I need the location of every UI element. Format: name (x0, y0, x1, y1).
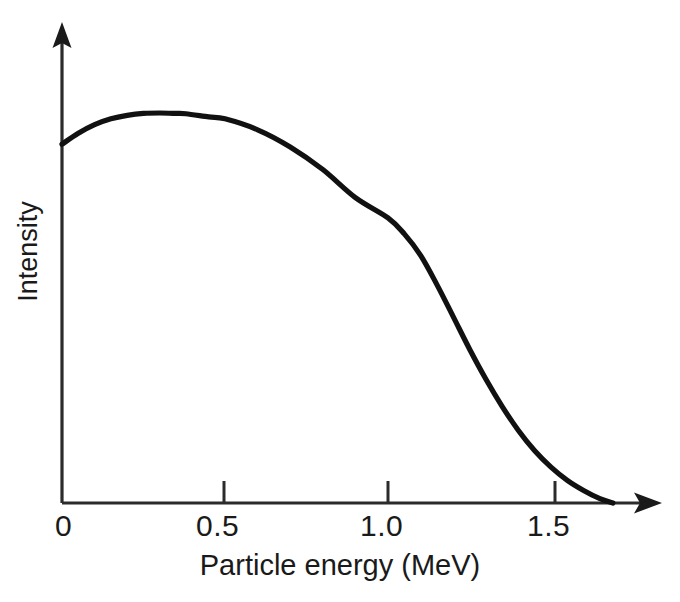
x-axis-title: Particle energy (MeV) (0, 551, 680, 580)
x-tick-label-0: 0 (55, 511, 72, 541)
x-tick-label-1.0: 1.0 (360, 511, 403, 541)
y-axis-title: Intensity (15, 172, 42, 332)
x-tick-label-1.5: 1.5 (527, 511, 570, 541)
spectrum-curve (62, 113, 613, 503)
plot-area (0, 0, 680, 602)
beta-spectrum-figure: 0 0.5 1.0 1.5 Particle energy (MeV) Inte… (0, 0, 680, 602)
x-tick-label-0.5: 0.5 (196, 511, 239, 541)
